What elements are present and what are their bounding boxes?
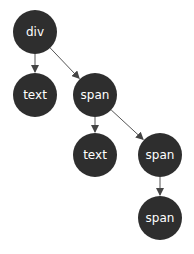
nodes: div text span text span span xyxy=(13,10,182,240)
node-label: div xyxy=(26,25,44,39)
node-label: span xyxy=(146,148,175,162)
tree-diagram: div text span text span span xyxy=(0,0,194,254)
node-span: span xyxy=(138,133,182,177)
node-label: span xyxy=(81,88,110,102)
node-span: span xyxy=(73,73,117,117)
edge-arrow xyxy=(111,110,143,139)
node-label: span xyxy=(146,211,175,225)
node-span: span xyxy=(138,196,182,240)
node-text: text xyxy=(73,133,117,177)
node-div: div xyxy=(13,10,57,54)
node-label: text xyxy=(23,88,47,102)
node-label: text xyxy=(83,148,107,162)
edge-arrow xyxy=(50,48,79,78)
node-text: text xyxy=(13,73,57,117)
